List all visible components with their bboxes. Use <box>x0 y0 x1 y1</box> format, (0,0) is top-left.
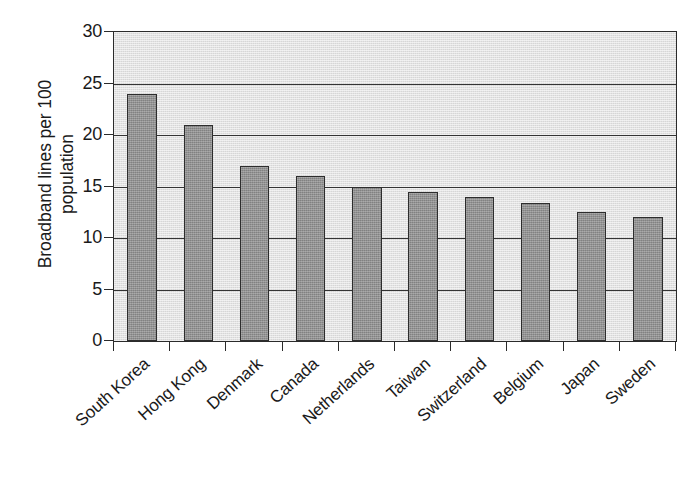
bar-series <box>114 32 676 341</box>
bar <box>296 176 325 341</box>
plot-area <box>113 31 677 342</box>
bar <box>577 212 606 341</box>
bar <box>352 187 381 342</box>
bar <box>184 125 213 341</box>
bar <box>633 217 662 341</box>
bar <box>240 166 269 341</box>
bar <box>408 192 437 341</box>
bar <box>465 197 494 341</box>
bar <box>521 203 550 341</box>
bar <box>127 94 156 341</box>
bar-chart-figure: Broadband lines per 100 population 05101… <box>0 0 696 477</box>
